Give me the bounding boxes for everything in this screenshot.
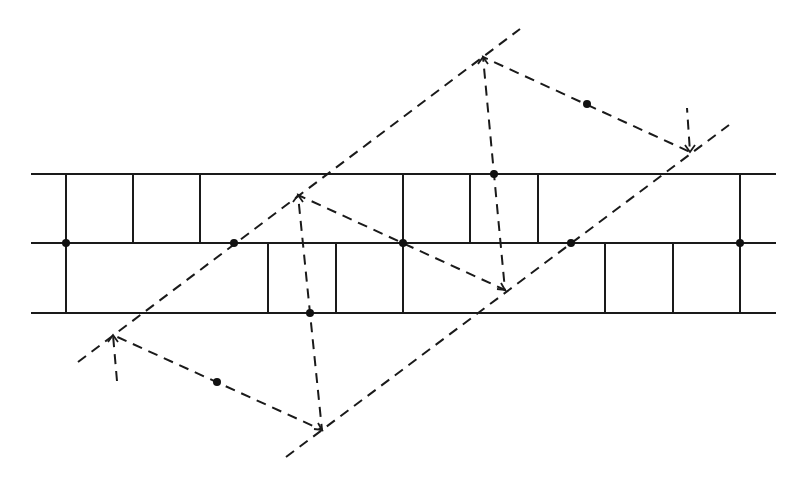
center-dot-icon xyxy=(230,239,238,247)
center-dot-icon xyxy=(306,309,314,317)
center-dot-icon xyxy=(213,378,221,386)
center-dot-icon xyxy=(490,170,498,178)
center-dot-icon xyxy=(399,239,407,247)
center-dot-icon xyxy=(62,239,70,247)
center-dot-icon xyxy=(583,100,591,108)
frieze-pattern-diagram xyxy=(0,0,796,483)
center-dot-icon xyxy=(736,239,744,247)
center-dot-icon xyxy=(567,239,575,247)
